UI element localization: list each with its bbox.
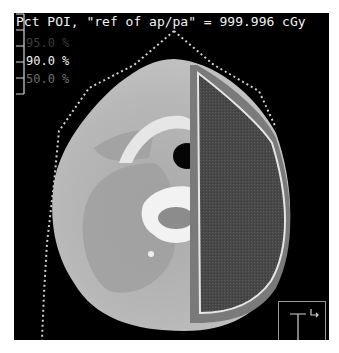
target-volume (198, 73, 285, 313)
isodose-95[interactable]: 95.0 % (26, 34, 69, 52)
orientation-icon[interactable] (278, 301, 326, 340)
isodose-50[interactable]: 50.0 % (26, 70, 69, 88)
isodose-90[interactable]: 90.0 % (26, 52, 69, 70)
scale-bar-icon (14, 13, 26, 95)
ct-image-viewport[interactable]: Pct POI, "ref of ap/pa" = 999.996 cGy 95… (14, 13, 329, 340)
isodose-legend: 95.0 % 90.0 % 50.0 % (26, 34, 69, 88)
dose-header: Pct POI, "ref of ap/pa" = 999.996 cGy (16, 14, 306, 30)
orientation-glyph-icon (279, 302, 325, 340)
